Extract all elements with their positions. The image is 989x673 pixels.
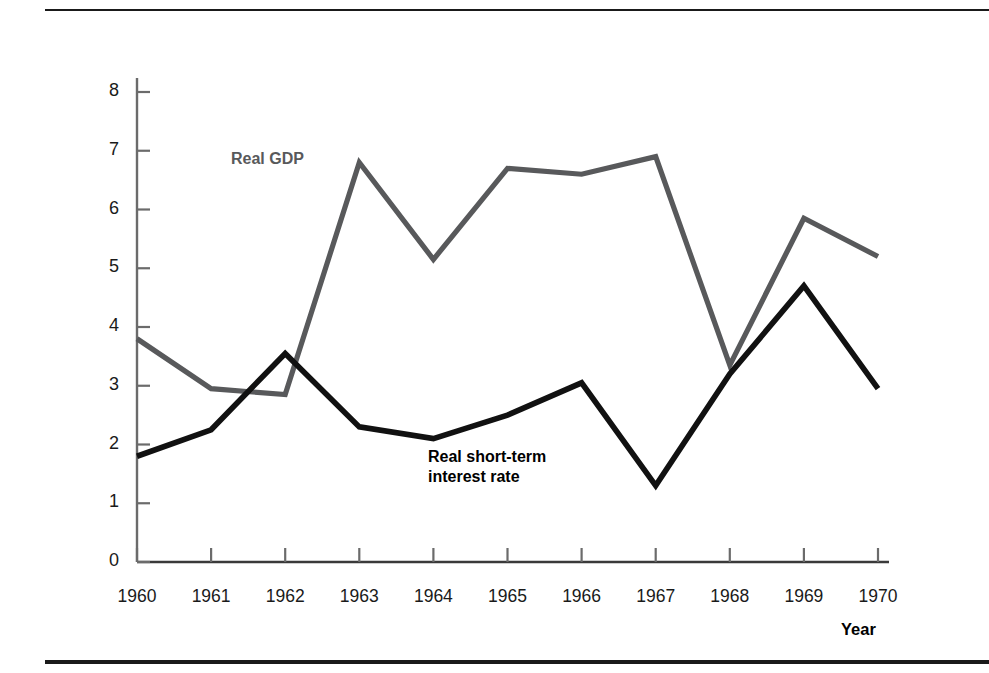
y-axis-tick-label: 8 <box>85 80 119 101</box>
x-axis-tick-label: 1970 <box>841 586 915 607</box>
y-axis-tick-label: 0 <box>85 550 119 571</box>
x-axis-tick-label: 1962 <box>248 586 322 607</box>
x-axis-tick-label: 1960 <box>100 586 174 607</box>
x-axis-tick-label: 1968 <box>693 586 767 607</box>
x-axis-tick-label: 1969 <box>767 586 841 607</box>
y-axis-tick-label: 6 <box>85 198 119 219</box>
x-axis-ticks <box>137 548 878 562</box>
x-axis-tick-label: 1966 <box>545 586 619 607</box>
series-line-real-gdp <box>137 157 878 395</box>
y-axis-tick-label: 2 <box>85 433 119 454</box>
x-axis-tick-label: 1965 <box>471 586 545 607</box>
x-axis-title: Year <box>841 620 876 639</box>
y-axis-tick-label: 7 <box>85 139 119 160</box>
series-annotation-real-gdp: Real GDP <box>231 149 304 169</box>
y-axis-tick-label: 3 <box>85 374 119 395</box>
x-axis-tick-label: 1961 <box>174 586 248 607</box>
y-axis-tick-label: 1 <box>85 491 119 512</box>
series-annotation-interest-rate: Real short-term interest rate <box>428 447 546 487</box>
line-chart-figure: Interest rate and real GDP growth rate (… <box>0 0 989 673</box>
y-axis-tick-label: 4 <box>85 315 119 336</box>
y-axis-ticks <box>137 92 150 562</box>
x-axis-tick-label: 1963 <box>322 586 396 607</box>
x-axis-tick-label: 1964 <box>396 586 470 607</box>
figure-rule-bottom <box>45 660 989 664</box>
y-axis-tick-label: 5 <box>85 256 119 277</box>
x-axis-tick-label: 1967 <box>619 586 693 607</box>
plot-canvas <box>0 0 989 673</box>
